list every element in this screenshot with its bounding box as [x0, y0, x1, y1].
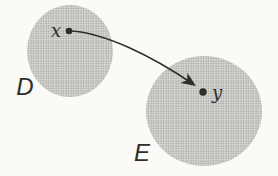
point-x-label: x: [51, 20, 61, 41]
set-e-label: E: [134, 139, 151, 166]
diagram-canvas: x y D E: [0, 0, 278, 176]
point-x-dot: [66, 28, 73, 35]
set-e-circle: [146, 56, 262, 166]
set-d-label: D: [16, 73, 33, 100]
point-y-label: y: [211, 82, 223, 103]
mapping-diagram: x y D E: [0, 0, 278, 176]
point-y-dot: [199, 88, 206, 95]
set-d-circle: [27, 5, 113, 97]
